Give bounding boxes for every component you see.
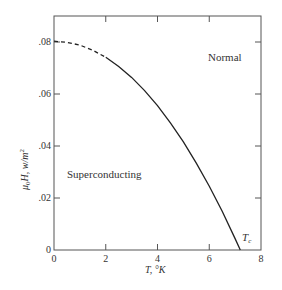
critical-field-curve-solid [106,57,241,250]
tc-label: Tc [242,231,252,245]
y-axis-label: μ0H, w/m2 [18,149,32,191]
tick-label: 2 [103,253,108,264]
region-label-normal: Normal [208,51,242,63]
tick-labels: 024680.02.04.06.08 [39,36,264,264]
x-axis-label: T, °K [145,264,167,275]
tick-label: .04 [39,140,52,151]
tick-label: .02 [39,192,52,203]
tick-label: .08 [39,36,52,47]
tick-label: 8 [259,253,264,264]
tick-label: 0 [52,253,57,264]
critical-field-curve-dashed [54,41,106,57]
tick-label: 0 [46,244,51,255]
critical-field-chart: 024680.02.04.06.08 Normal Superconductin… [0,0,282,290]
region-label-superconducting: Superconducting [67,168,142,180]
tick-label: 6 [207,253,212,264]
tick-label: 4 [155,253,160,264]
tick-label: .06 [39,88,52,99]
